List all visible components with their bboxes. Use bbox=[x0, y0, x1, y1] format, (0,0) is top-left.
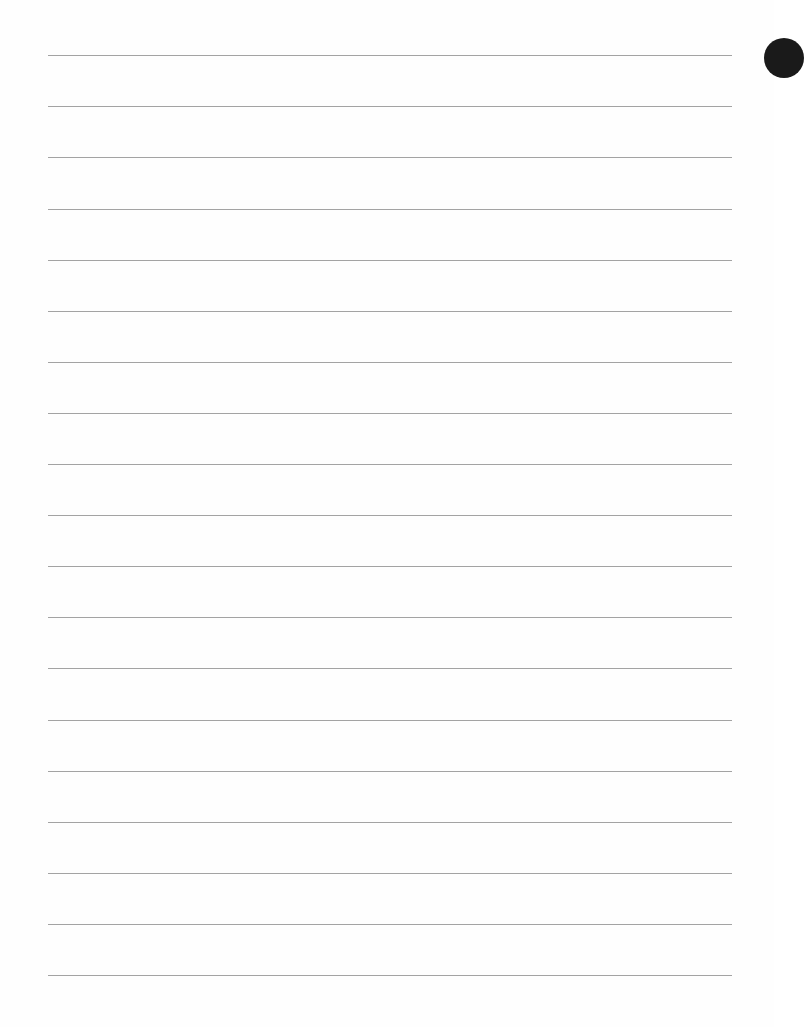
ruled-line bbox=[48, 873, 732, 874]
ruled-line bbox=[48, 515, 732, 516]
ruled-line bbox=[48, 566, 732, 567]
ruled-line bbox=[48, 311, 732, 312]
ruled-line bbox=[48, 771, 732, 772]
ruled-line bbox=[48, 413, 732, 414]
ruled-line bbox=[48, 157, 732, 158]
ruled-line bbox=[48, 106, 732, 107]
ruled-line bbox=[48, 55, 732, 56]
ruled-line bbox=[48, 260, 732, 261]
ruled-line bbox=[48, 209, 732, 210]
ruled-line bbox=[48, 822, 732, 823]
ruled-line bbox=[48, 720, 732, 721]
ruled-line bbox=[48, 362, 732, 363]
ruled-line bbox=[48, 668, 732, 669]
ruled-line bbox=[48, 464, 732, 465]
ruled-line bbox=[48, 975, 732, 976]
ruled-line bbox=[48, 617, 732, 618]
ruled-line bbox=[48, 924, 732, 925]
hole-punch bbox=[764, 38, 804, 78]
